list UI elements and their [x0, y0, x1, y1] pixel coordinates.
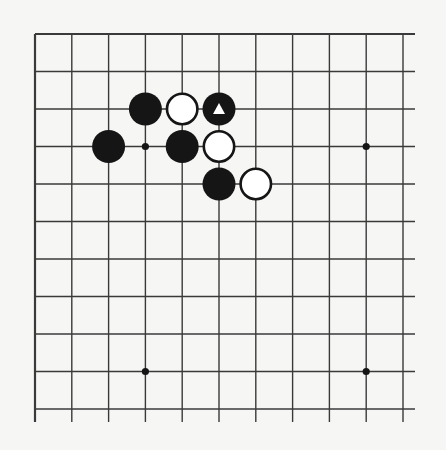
star-point-icon	[363, 143, 370, 150]
black-stone-icon	[129, 93, 162, 126]
go-board-diagram	[0, 0, 446, 450]
star-point-icon	[142, 143, 149, 150]
white-stone	[241, 169, 271, 199]
go-board	[0, 0, 446, 450]
white-stone	[167, 94, 197, 124]
white-stone-icon	[167, 94, 197, 124]
black-stone	[92, 130, 125, 163]
white-stone-icon	[241, 169, 271, 199]
black-stone-icon	[166, 130, 199, 163]
star-point-icon	[363, 368, 370, 375]
grid-lines	[35, 34, 415, 422]
white-stone-icon	[204, 131, 234, 161]
black-stone	[203, 168, 236, 201]
black-stone	[203, 93, 236, 126]
black-stone-icon	[92, 130, 125, 163]
black-stone-icon	[203, 168, 236, 201]
black-stone	[129, 93, 162, 126]
white-stone	[204, 131, 234, 161]
black-stone	[166, 130, 199, 163]
star-point-icon	[142, 368, 149, 375]
